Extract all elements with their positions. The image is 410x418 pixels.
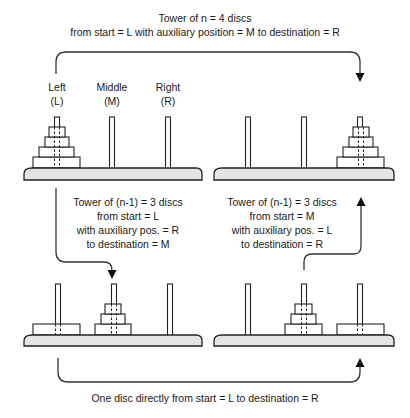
title-line-1: Tower of n = 4 discs xyxy=(158,12,251,24)
step3-line-1: Tower of (n-1) = 3 discs xyxy=(227,196,336,208)
peg-label-middle-abbr: (M) xyxy=(104,95,120,107)
step3-line-3: with auxiliary pos. = L xyxy=(231,224,333,236)
arrow-step-2 xyxy=(58,358,365,382)
disc-1 xyxy=(105,304,121,314)
disc-2 xyxy=(101,314,125,324)
base xyxy=(24,168,202,180)
disc-3 xyxy=(95,324,131,335)
peg-middle xyxy=(302,117,307,169)
peg-left xyxy=(246,284,251,336)
panel-final xyxy=(214,117,394,180)
step2-label: One disc directly from start = L to dest… xyxy=(91,392,319,404)
disc-2 xyxy=(349,137,373,147)
disc-3 xyxy=(39,147,74,157)
step1-line-1: Tower of (n-1) = 3 discs xyxy=(73,196,182,208)
panel-after-step1 xyxy=(24,284,202,346)
step1-label: Tower of (n-1) = 3 discs from start = L … xyxy=(73,196,182,250)
peg-label-middle: Middle xyxy=(97,81,128,93)
peg-label-right: Right xyxy=(156,81,181,93)
peg-labels: Left (L) Middle (M) Right (R) xyxy=(48,81,180,107)
peg-middle xyxy=(110,117,115,169)
step1-line-3: with auxiliary pos. = R xyxy=(76,224,180,236)
disc-1 xyxy=(353,127,369,137)
arrow-full-tower-move xyxy=(56,52,365,82)
disc-3 xyxy=(343,147,378,157)
disc-4 xyxy=(337,157,384,168)
base xyxy=(214,168,394,180)
disc-3 xyxy=(285,324,322,335)
step3-line-4: to destination = R xyxy=(241,238,323,250)
disc-2 xyxy=(291,314,316,324)
base xyxy=(24,335,202,346)
panel-after-step2 xyxy=(214,284,394,346)
disc-2 xyxy=(45,137,69,147)
disc-4 xyxy=(337,324,384,335)
step1-line-4: to destination = M xyxy=(86,238,169,250)
tower-of-hanoi-diagram: Tower of n = 4 discs from start = L with… xyxy=(0,0,410,418)
disc-4 xyxy=(33,157,80,168)
peg-left xyxy=(246,117,251,169)
step3-label: Tower of (n-1) = 3 discs from start = M … xyxy=(227,196,336,250)
peg-label-left: Left xyxy=(48,81,66,93)
base xyxy=(214,335,394,346)
panel-initial xyxy=(24,117,202,180)
peg-label-left-abbr: (L) xyxy=(51,95,64,107)
step1-line-2: from start = L xyxy=(97,210,159,222)
disc-4 xyxy=(33,324,80,335)
step3-line-2: from start = M xyxy=(249,210,314,222)
peg-right xyxy=(168,284,173,336)
disc-1 xyxy=(49,127,65,137)
peg-label-right-abbr: (R) xyxy=(161,95,176,107)
title-line-2: from start = L with auxiliary position =… xyxy=(70,26,340,38)
peg-right xyxy=(166,117,171,169)
disc-1 xyxy=(295,304,312,314)
